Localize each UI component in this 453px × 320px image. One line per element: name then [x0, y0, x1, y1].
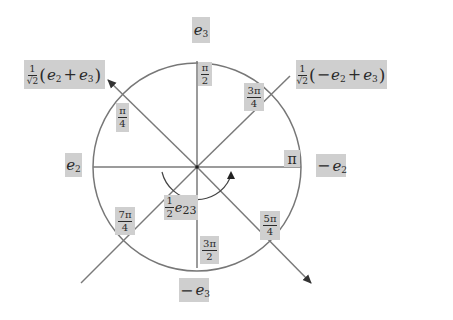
angle-pi-over-2: π2 [198, 62, 212, 86]
angle-text: π [287, 151, 296, 167]
angle-three-pi-over-2: 3π2 [200, 236, 219, 264]
plus-operator: + [64, 65, 77, 84]
angle-three-pi-over-4: 3π4 [244, 83, 264, 111]
label-e3-base: e [194, 21, 203, 39]
label-e3: e3 [192, 17, 210, 43]
label-neg-e3-base: e [195, 281, 204, 299]
rotation-arrow-icon [227, 171, 235, 179]
origin-point [195, 165, 199, 169]
angle-den: 4 [119, 118, 125, 129]
angle-den: 4 [251, 98, 257, 109]
term2-sub: 3 [88, 74, 94, 84]
label-neg-e2: −e2 [316, 154, 346, 177]
coef-denominator: 2 [166, 208, 172, 219]
label-bivector: 1 2 e23 [164, 195, 198, 220]
angle-pi: π [284, 150, 300, 167]
angle-five-pi-over-4: 5π4 [260, 211, 280, 240]
label-neg-e3: −e3 [179, 278, 209, 302]
label-neg-e3-sign: − [180, 281, 193, 300]
angle-den: 2 [202, 75, 208, 86]
bivector-sub: 23 [183, 204, 197, 217]
angle-num: π [118, 106, 127, 118]
term2-base: e [79, 66, 88, 84]
label-neg-e2-sub: 2 [341, 165, 347, 175]
coef-numerator: 1 [28, 64, 36, 76]
label-neg-e2-base: e [332, 157, 341, 175]
coef-numerator: 1 [165, 196, 173, 208]
upper-right-coefficient: 1 √2 [297, 64, 308, 86]
angle-num: 3π [202, 239, 217, 251]
bivector-coefficient: 1 2 [165, 196, 173, 219]
term1-sub: 2 [340, 74, 346, 84]
plus-operator: + [348, 65, 361, 84]
bivector-base: e [175, 200, 183, 215]
upper-left-coefficient: 1 √2 [27, 64, 38, 86]
label-e2-sub: 2 [75, 164, 81, 174]
term2-sub: 3 [372, 74, 378, 84]
label-e3-sub: 3 [203, 29, 209, 39]
rotor-diagram: e3 −e3 e2 −e2 1 √2 ( e2 + e3 ) 1 √2 ( −e… [0, 0, 453, 320]
coef-numerator: 1 [298, 64, 306, 76]
label-upper-left-vector: 1 √2 ( e2 + e3 ) [24, 60, 105, 89]
angle-num: π [201, 63, 210, 75]
open-paren: ( [309, 65, 316, 85]
label-upper-right-vector: 1 √2 ( −e2 + e3 ) [296, 60, 387, 89]
angle-seven-pi-over-4: 7π4 [115, 207, 135, 235]
close-paren: ) [379, 65, 386, 85]
label-neg-e3-sub: 3 [204, 289, 210, 299]
term1-base: e [47, 66, 56, 84]
angle-num: 7π [118, 210, 133, 222]
label-e2-base: e [66, 156, 75, 174]
term1-base: e [331, 66, 340, 84]
coef-denominator: √2 [297, 76, 308, 86]
angle-num: 3π [247, 86, 262, 98]
label-neg-e2-sign: − [317, 156, 330, 175]
term1-sub: 2 [56, 74, 62, 84]
term2-base: e [363, 66, 372, 84]
angle-den: 4 [122, 222, 128, 233]
angle-pi-over-4: π4 [116, 103, 129, 132]
angle-den: 2 [206, 251, 212, 262]
diag-lower-right-arrow [197, 167, 311, 283]
minus-sign: − [317, 65, 330, 84]
diag-lower-left-line [81, 167, 197, 283]
label-e2: e2 [65, 153, 82, 177]
close-paren: ) [95, 65, 102, 85]
angle-num: 5π [263, 214, 278, 226]
coef-denominator: √2 [27, 76, 38, 86]
open-paren: ( [39, 65, 46, 85]
angle-den: 4 [267, 226, 273, 237]
